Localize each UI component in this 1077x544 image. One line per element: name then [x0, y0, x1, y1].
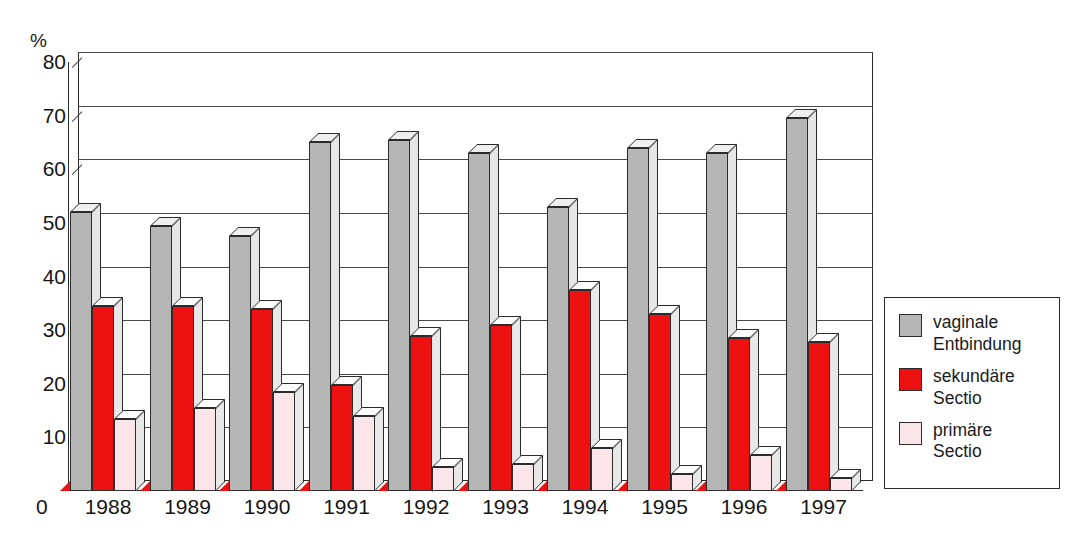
bar-group-1989	[150, 62, 226, 491]
bar-1995-series-2[interactable]	[649, 314, 671, 491]
bar-group-1988	[70, 62, 146, 491]
bar-face	[512, 464, 534, 491]
bar-face	[353, 416, 375, 491]
x-axis-tick-1995: 1995	[630, 495, 700, 519]
bar-face	[229, 236, 251, 491]
x-axis-tick-1996: 1996	[709, 495, 779, 519]
y-axis-zero-label: 0	[36, 495, 48, 519]
bar-face	[388, 140, 410, 491]
x-axis-tick-1993: 1993	[471, 495, 541, 519]
bar-side	[216, 399, 225, 491]
bar-1996-series-1[interactable]	[706, 153, 728, 491]
bar-1989-series-2[interactable]	[172, 306, 194, 491]
bar-face	[750, 455, 772, 491]
bar-1990-series-3[interactable]	[273, 392, 295, 491]
bar-group-1991	[309, 62, 385, 491]
y-axis-tick-30: 30	[22, 318, 66, 342]
bar-face	[671, 474, 693, 491]
y-axis-tick-40: 40	[22, 265, 66, 289]
bar-1989-series-1[interactable]	[150, 226, 172, 491]
bar-face	[410, 336, 432, 492]
legend-swatch-red	[899, 368, 922, 391]
bar-face	[432, 467, 454, 491]
bar-1989-series-3[interactable]	[194, 408, 216, 491]
bar-1990-series-1[interactable]	[229, 236, 251, 491]
bar-side	[375, 407, 384, 491]
legend-item-label: vaginale Entbindung	[933, 312, 1022, 356]
floor-wedge	[617, 481, 627, 491]
bar-group-1993	[468, 62, 544, 491]
legend-swatch-gray	[899, 314, 922, 337]
bar-1991-series-1[interactable]	[309, 142, 331, 491]
bar-1988-series-1[interactable]	[70, 212, 92, 491]
bar-face	[331, 385, 353, 491]
bar-group-1995	[627, 62, 703, 491]
bar-1994-series-1[interactable]	[547, 207, 569, 491]
bar-group-1990	[229, 62, 305, 491]
bar-1993-series-3[interactable]	[512, 464, 534, 491]
bar-1992-series-1[interactable]	[388, 140, 410, 491]
bar-side	[830, 333, 839, 491]
x-axis-tick-1994: 1994	[550, 495, 620, 519]
bar-1995-series-1[interactable]	[627, 148, 649, 491]
bars-layer	[68, 62, 863, 491]
bar-1988-series-3[interactable]	[114, 419, 136, 491]
bar-face	[309, 142, 331, 491]
y-axis-tick-10: 10	[22, 425, 66, 449]
bar-face	[706, 153, 728, 491]
x-axis-tick-1991: 1991	[312, 495, 382, 519]
floor-wedge	[60, 481, 70, 491]
legend-swatch-pink	[899, 422, 922, 445]
floor-wedge	[458, 481, 468, 491]
bar-face	[114, 419, 136, 491]
bar-1997-series-1[interactable]	[786, 118, 808, 491]
bar-face	[627, 148, 649, 491]
bar-1992-series-3[interactable]	[432, 467, 454, 491]
bar-1991-series-2[interactable]	[331, 385, 353, 491]
floor-wedge	[776, 481, 786, 491]
bar-1988-series-2[interactable]	[92, 306, 114, 491]
legend-item-3[interactable]: primäre Sectio	[899, 420, 1059, 464]
y-axis-tick-60: 60	[22, 157, 66, 181]
plot-area	[68, 52, 873, 491]
bar-1994-series-2[interactable]	[569, 290, 591, 491]
bar-group-1992	[388, 62, 464, 491]
bar-face	[728, 338, 750, 491]
bar-1990-series-2[interactable]	[251, 309, 273, 491]
bar-face	[150, 226, 172, 491]
chart-legend: vaginale Entbindungsekundäre Sectioprimä…	[884, 297, 1060, 489]
bar-1996-series-2[interactable]	[728, 338, 750, 491]
y-axis-tick-70: 70	[22, 104, 66, 128]
y-axis-tick-20: 20	[22, 372, 66, 396]
bar-face	[273, 392, 295, 491]
bar-face	[569, 290, 591, 491]
bar-face	[70, 212, 92, 491]
bar-1992-series-2[interactable]	[410, 336, 432, 492]
legend-item-1[interactable]: vaginale Entbindung	[899, 312, 1059, 356]
bar-1996-series-3[interactable]	[750, 455, 772, 491]
bar-face	[490, 325, 512, 491]
gridline-80	[78, 52, 873, 53]
bar-1997-series-3[interactable]	[830, 478, 852, 491]
floor-wedge	[219, 481, 229, 491]
bar-face	[808, 342, 830, 491]
y-axis-tick-80: 80	[22, 50, 66, 74]
bar-face	[547, 207, 569, 491]
bar-group-1994	[547, 62, 623, 491]
bar-1994-series-3[interactable]	[591, 448, 613, 491]
bar-side	[295, 382, 304, 491]
bar-side	[671, 305, 680, 491]
bar-1997-series-2[interactable]	[808, 342, 830, 491]
bar-face	[194, 408, 216, 491]
bar-face	[172, 306, 194, 491]
bar-1991-series-3[interactable]	[353, 416, 375, 491]
legend-item-2[interactable]: sekundäre Sectio	[899, 366, 1059, 410]
bar-1993-series-1[interactable]	[468, 153, 490, 491]
floor-wedge	[299, 481, 309, 491]
bar-group-1997	[786, 62, 862, 491]
y-axis-tick-50: 50	[22, 211, 66, 235]
bar-1993-series-2[interactable]	[490, 325, 512, 491]
bar-1995-series-3[interactable]	[671, 474, 693, 491]
x-axis-tick-1989: 1989	[153, 495, 223, 519]
floor-wedge	[696, 481, 706, 491]
